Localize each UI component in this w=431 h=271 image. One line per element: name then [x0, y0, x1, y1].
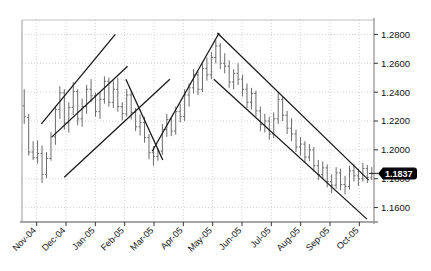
y-axis-tick-label: 1.2800	[381, 29, 410, 40]
x-axis-tick-label: Nov-04	[10, 225, 38, 253]
x-axis-tick-label: Aug-05	[274, 225, 302, 253]
plot-background	[22, 20, 374, 222]
price-marker-label: 1.1837	[385, 169, 413, 179]
y-axis-tick-label: 1.2400	[381, 87, 410, 98]
y-axis: 1.28001.26001.24001.22001.20001.18001.16…	[374, 18, 410, 224]
x-axis-tick-label: May-05	[186, 225, 214, 253]
x-axis-tick-label: Oct-05	[335, 225, 361, 251]
y-axis-tick-label: 1.1600	[381, 202, 410, 213]
x-axis-tick-label: Dec-04	[40, 225, 68, 253]
price-marker-badge: 1.1837	[378, 167, 417, 179]
x-axis-tick-label: Jul-05	[248, 225, 272, 249]
y-axis-tick-label: 1.2200	[381, 115, 410, 126]
x-axis-tick-label: Apr-05	[159, 225, 185, 251]
chart-canvas: 1.28001.26001.24001.22001.20001.18001.16…	[0, 0, 431, 271]
ohlc-price-chart: 1.28001.26001.24001.22001.20001.18001.16…	[0, 0, 431, 271]
x-axis-tick-label: Jun-05	[217, 225, 244, 252]
y-axis-tick-label: 1.2000	[381, 144, 410, 155]
y-axis-tick-label: 1.2600	[381, 58, 410, 69]
current-price-marker: 1.1837	[369, 167, 417, 179]
x-axis-tick-label: Jan-05	[70, 225, 97, 252]
x-axis: Nov-04Dec-04Jan-05Feb-05Mar-05Apr-05May-…	[10, 222, 378, 254]
x-axis-tick-label: Mar-05	[128, 225, 155, 252]
x-axis-tick-label: Feb-05	[99, 225, 126, 252]
x-axis-tick-label: Sep-05	[304, 225, 332, 253]
